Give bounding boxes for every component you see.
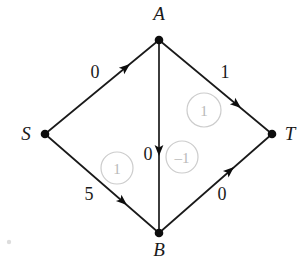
edge-a-t	[159, 40, 272, 134]
edge-line-s-b	[45, 134, 159, 233]
edges-layer	[45, 40, 272, 233]
node-label-a: A	[151, 3, 165, 24]
annotation-label-center: –1	[174, 150, 190, 166]
edge-weight-s-a: 0	[91, 62, 100, 82]
edge-s-a	[45, 40, 159, 134]
node-dot-a	[155, 36, 164, 45]
edge-line-b-t	[159, 134, 272, 233]
edge-line-s-a	[45, 40, 159, 134]
annotation-center: –1	[166, 141, 198, 173]
graph-figure: 1 –1 1 0 1 0 5 0 A	[0, 0, 307, 267]
edge-weight-s-b: 5	[85, 184, 94, 204]
node-t: T	[268, 123, 297, 144]
node-label-s: S	[21, 123, 31, 144]
annotations-layer: 1 –1 1	[101, 93, 221, 184]
edge-a-b	[155, 40, 164, 233]
node-a: A	[151, 3, 165, 44]
edge-weight-b-t: 0	[218, 184, 227, 204]
graph-canvas: 1 –1 1 0 1 0 5 0 A	[0, 0, 307, 267]
edge-weight-a-b: 0	[144, 144, 153, 164]
edge-line-a-t	[159, 40, 272, 134]
node-dot-s	[41, 130, 50, 139]
edge-weight-a-t: 1	[221, 62, 230, 82]
annotation-lower-left: 1	[101, 152, 133, 184]
node-s: S	[21, 123, 49, 144]
annotation-label-lower-left: 1	[113, 161, 121, 177]
node-b: B	[153, 229, 165, 260]
edge-b-t	[159, 134, 272, 233]
node-dot-t	[268, 130, 277, 139]
annotation-label-upper-right: 1	[200, 103, 208, 119]
edge-s-b	[45, 134, 159, 233]
node-dot-b	[155, 229, 164, 238]
node-label-t: T	[285, 123, 297, 144]
node-label-b: B	[153, 239, 165, 260]
scan-artifact-speck	[7, 240, 11, 244]
annotation-upper-right: 1	[187, 93, 221, 127]
